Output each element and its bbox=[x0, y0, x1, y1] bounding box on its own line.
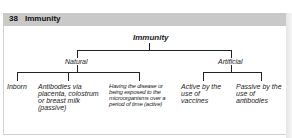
panel-shadow bbox=[286, 13, 292, 138]
connector-artificial-up bbox=[231, 50, 232, 58]
node-active-vaccines: Active by the use of vaccines bbox=[181, 83, 227, 104]
node-artificial: Artificial bbox=[218, 58, 243, 65]
connector-antibodies-placenta bbox=[68, 72, 69, 81]
connector-root-down bbox=[149, 43, 150, 50]
connector-artificial-horizontal bbox=[203, 72, 262, 73]
node-immunity: Immunity bbox=[133, 34, 169, 41]
connector-having-disease bbox=[139, 72, 140, 81]
immunity-panel bbox=[3, 13, 287, 135]
connector-artificial-down bbox=[231, 65, 232, 72]
connector-root-horizontal bbox=[77, 50, 232, 51]
connector-natural-up bbox=[77, 50, 78, 58]
connector-passive-antibodies bbox=[261, 72, 262, 81]
connector-inborn bbox=[17, 72, 18, 81]
connector-natural-horizontal bbox=[17, 72, 140, 73]
node-having-disease: Having the disease or being exposed to t… bbox=[109, 83, 175, 107]
connector-active-vaccines bbox=[203, 72, 204, 81]
section-title: Immunity bbox=[25, 14, 61, 23]
node-inborn: Inborn bbox=[7, 83, 37, 90]
node-passive-antibodies: Passive by the use of antibodies bbox=[236, 83, 286, 104]
connector-natural-down bbox=[77, 65, 78, 72]
node-antibodies-placenta: Antibodies via placenta, colostrum or br… bbox=[38, 83, 106, 111]
node-natural: Natural bbox=[65, 58, 88, 65]
section-number: 38 bbox=[9, 14, 18, 23]
